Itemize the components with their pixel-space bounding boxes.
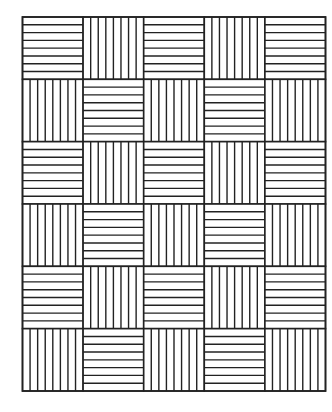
pattern-cell-horizontal bbox=[83, 329, 144, 391]
pattern-cell-horizontal bbox=[265, 266, 326, 328]
pattern-cell-vertical bbox=[83, 17, 144, 79]
pattern-cell-horizontal bbox=[144, 17, 205, 79]
pattern-cell-vertical bbox=[144, 79, 205, 141]
pattern-cell-horizontal bbox=[204, 329, 265, 391]
pattern-cell-horizontal bbox=[144, 266, 205, 328]
pattern-cell-vertical bbox=[265, 79, 326, 141]
pattern-cell-horizontal bbox=[144, 142, 205, 204]
pattern-cell-horizontal bbox=[204, 79, 265, 141]
pattern-cell-vertical bbox=[83, 266, 144, 328]
basket-weave-pattern bbox=[0, 0, 332, 412]
pattern-cell-horizontal bbox=[83, 204, 144, 266]
pattern-cell-vertical bbox=[204, 17, 265, 79]
pattern-cell-horizontal bbox=[23, 17, 84, 79]
pattern-cell-vertical bbox=[23, 204, 84, 266]
pattern-cell-vertical bbox=[265, 204, 326, 266]
pattern-cell-horizontal bbox=[23, 266, 84, 328]
pattern-cell-vertical bbox=[204, 266, 265, 328]
pattern-cell-vertical bbox=[204, 142, 265, 204]
pattern-cell-horizontal bbox=[23, 142, 84, 204]
pattern-cells bbox=[23, 17, 326, 391]
pattern-cell-horizontal bbox=[204, 204, 265, 266]
pattern-cell-horizontal bbox=[265, 142, 326, 204]
pattern-cell-vertical bbox=[23, 79, 84, 141]
pattern-cell-vertical bbox=[23, 329, 84, 391]
pattern-cell-vertical bbox=[265, 329, 326, 391]
pattern-cell-vertical bbox=[144, 329, 205, 391]
pattern-cell-vertical bbox=[144, 204, 205, 266]
pattern-cell-horizontal bbox=[83, 79, 144, 141]
pattern-cell-horizontal bbox=[265, 17, 326, 79]
pattern-cell-vertical bbox=[83, 142, 144, 204]
